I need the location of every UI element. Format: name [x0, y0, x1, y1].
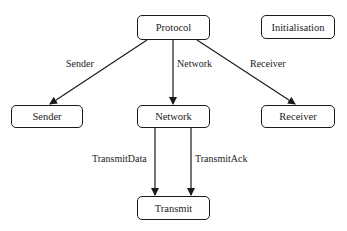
node-transmit-label: Transmit: [155, 203, 193, 214]
node-network[interactable]: Network: [137, 105, 210, 128]
edge-protocol-receiver: [197, 40, 295, 104]
node-initialisation[interactable]: Initialisation: [261, 15, 335, 39]
node-initialisation-label: Initialisation: [271, 22, 324, 33]
edge-label-transmit-data: TransmitData: [92, 153, 147, 164]
edge-label-transmit-ack: TransmitAck: [195, 153, 247, 164]
edge-label-receiver: Receiver: [250, 58, 286, 69]
edge-protocol-sender: [50, 40, 147, 104]
node-protocol-label: Protocol: [156, 22, 192, 33]
edge-label-network: Network: [177, 58, 212, 69]
node-network-label: Network: [155, 111, 192, 122]
node-sender[interactable]: Sender: [11, 105, 83, 128]
edge-label-sender: Sender: [66, 58, 94, 69]
node-receiver[interactable]: Receiver: [261, 105, 335, 128]
node-transmit[interactable]: Transmit: [137, 196, 210, 220]
node-receiver-label: Receiver: [279, 111, 316, 122]
node-sender-label: Sender: [32, 111, 61, 122]
node-protocol[interactable]: Protocol: [137, 15, 210, 40]
